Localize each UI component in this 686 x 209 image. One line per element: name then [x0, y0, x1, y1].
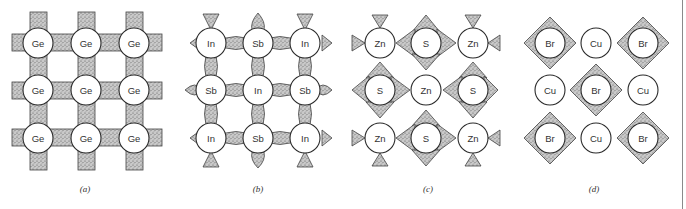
- panel-label-c: (c): [423, 184, 433, 194]
- atom-label: In: [301, 38, 309, 49]
- atom-label: Ge: [32, 38, 45, 49]
- atom-label: In: [207, 38, 215, 49]
- atom-label: Cu: [637, 85, 649, 96]
- atom-label: Ge: [128, 38, 141, 49]
- atom-label: Cu: [544, 85, 556, 96]
- atom-label: Ge: [128, 85, 141, 96]
- panel-c: Zn S Zn S Zn S Zn S Zn (c): [352, 15, 500, 194]
- atom-label: Sb: [252, 133, 264, 144]
- panel-label-d: (d): [589, 184, 600, 194]
- atom-label: Zn: [374, 38, 385, 49]
- atoms-d: Br Cu Br Cu Br Cu Br Cu Br: [535, 28, 658, 153]
- atom-label: Ge: [80, 85, 93, 96]
- atom-label: Sb: [252, 38, 264, 49]
- atom-label: Ge: [32, 133, 45, 144]
- atom-label: S: [423, 133, 429, 144]
- atoms-c: Zn S Zn S Zn S Zn S Zn: [365, 28, 488, 153]
- atom-label: Ge: [128, 133, 141, 144]
- panel-label-b: (b): [253, 184, 264, 194]
- atom-label: Br: [591, 85, 601, 96]
- atom-label: In: [207, 133, 215, 144]
- atom-label: Zn: [374, 133, 385, 144]
- panel-b: In Sb In Sb In Sb In Sb In (b): [185, 13, 332, 194]
- atom-label: Ge: [80, 38, 93, 49]
- atom-label: Ge: [32, 85, 45, 96]
- atom-label: In: [254, 85, 262, 96]
- atom-label: S: [423, 38, 429, 49]
- atom-label: In: [301, 133, 309, 144]
- atom-label: Br: [638, 38, 648, 49]
- atom-label: S: [377, 85, 383, 96]
- atom-label: Zn: [420, 85, 431, 96]
- atom-label: S: [470, 85, 476, 96]
- atom-label: Cu: [590, 133, 602, 144]
- atom-label: Zn: [467, 133, 478, 144]
- panel-a: Ge Ge Ge Ge Ge Ge Ge Ge Ge (a): [12, 12, 162, 194]
- atom-label: Br: [545, 38, 555, 49]
- atom-label: Sb: [205, 85, 217, 96]
- atom-label: Ge: [80, 133, 93, 144]
- atom-label: Zn: [467, 38, 478, 49]
- atom-label: Cu: [590, 38, 602, 49]
- bonding-diagram: Ge Ge Ge Ge Ge Ge Ge Ge Ge (a): [0, 0, 686, 209]
- atom-label: Sb: [299, 85, 311, 96]
- atom-label: Br: [638, 133, 648, 144]
- panel-label-a: (a): [80, 184, 91, 194]
- atom-label: Br: [545, 133, 555, 144]
- atoms-b: In Sb In Sb In Sb In Sb In: [196, 28, 320, 153]
- atoms-a: Ge Ge Ge Ge Ge Ge Ge Ge Ge: [23, 28, 149, 153]
- panel-d: Br Cu Br Cu Br Cu Br Cu Br (d): [524, 17, 669, 194]
